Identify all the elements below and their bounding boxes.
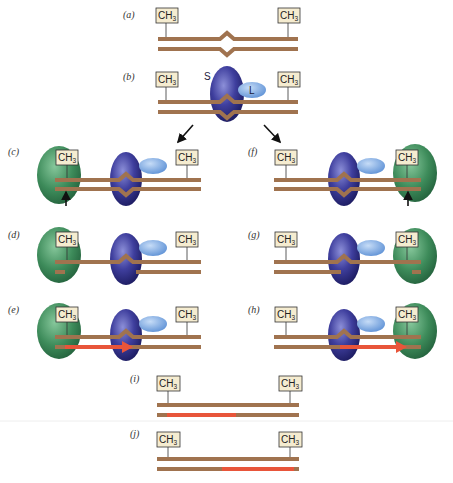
panel-d: (d) CH3 CH3 bbox=[8, 227, 201, 285]
methyl-group-right: CH3 bbox=[176, 150, 198, 180]
methyl-group-right: CH3 bbox=[278, 72, 300, 101]
dna-bottom-strand bbox=[158, 49, 298, 55]
methyl-group-right: CH3 bbox=[279, 376, 302, 405]
methyl-group-right: CH3 bbox=[176, 307, 198, 337]
dna-top-strand bbox=[158, 33, 298, 39]
panel-b: (b) CH3 CH3 S L bbox=[123, 66, 300, 122]
methyl-group-right: CH3 bbox=[176, 232, 198, 262]
methyl-group-left: CH3 bbox=[275, 307, 297, 337]
panel-label-i: (i) bbox=[130, 373, 140, 385]
panel-c: (c) CH3 CH3 bbox=[8, 146, 201, 206]
mut-s-protein bbox=[328, 233, 360, 285]
mut-s-protein bbox=[110, 233, 142, 285]
panel-label-h: (h) bbox=[248, 304, 260, 316]
panel-g: (g) CH3 CH3 bbox=[248, 228, 437, 285]
methyl-group-left: CH3 bbox=[157, 432, 180, 459]
methyl-group-left: CH3 bbox=[156, 72, 178, 101]
mut-l-protein bbox=[357, 158, 385, 174]
panel-label-e: (e) bbox=[8, 304, 20, 316]
panel-h: (h) CH3 CH3 bbox=[248, 303, 437, 361]
methyl-group-right: CH3 bbox=[278, 8, 300, 38]
mut-l-protein bbox=[357, 240, 385, 256]
mut-l-protein bbox=[139, 158, 167, 174]
arrow-to-c bbox=[178, 125, 193, 142]
methyl-group-right: CH3 bbox=[279, 432, 302, 459]
mut-l-protein bbox=[357, 316, 385, 332]
mut-s-label: S bbox=[204, 71, 211, 82]
panel-label-c: (c) bbox=[8, 146, 20, 158]
panel-label-g: (g) bbox=[248, 229, 260, 241]
panel-label-b: (b) bbox=[123, 71, 135, 83]
panel-label-a: (a) bbox=[123, 9, 135, 21]
panel-a: (a) CH3 CH3 bbox=[123, 8, 300, 55]
panel-j: (j) CH3 CH3 bbox=[130, 428, 302, 469]
methyl-group-left: CH3 bbox=[156, 8, 178, 38]
methyl-group-left: CH3 bbox=[275, 150, 297, 180]
panel-label-f: (f) bbox=[248, 146, 258, 158]
methyl-group-left: CH3 bbox=[157, 376, 180, 405]
mismatch-repair-diagram: (a) CH3 CH3 (b) CH3 CH3 S L bbox=[0, 0, 453, 483]
arrow-to-f bbox=[264, 125, 280, 142]
mut-l-protein bbox=[139, 240, 167, 256]
methyl-group-left: CH3 bbox=[275, 232, 297, 262]
panel-label-d: (d) bbox=[8, 229, 20, 241]
panel-label-j: (j) bbox=[130, 428, 140, 440]
mut-l-label: L bbox=[249, 85, 255, 96]
mut-l-protein bbox=[139, 316, 167, 332]
panel-f: (f) CH3 CH3 bbox=[248, 144, 437, 206]
panel-i: (i) CH3 CH3 bbox=[130, 373, 302, 415]
panel-e: (e) CH3 CH3 bbox=[8, 303, 201, 361]
